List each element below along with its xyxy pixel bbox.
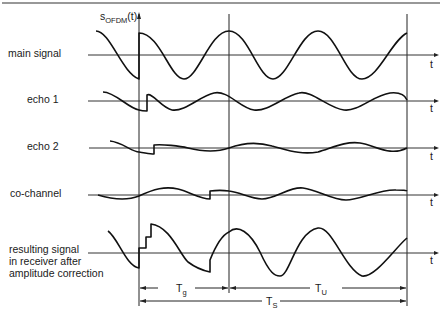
resulting-signal-wave bbox=[108, 224, 407, 276]
svg-text:t: t bbox=[430, 102, 433, 114]
ofdm-echo-diagram: sOFDM(t) t t t t t main signal echo 1 ec… bbox=[0, 0, 447, 313]
time-axes bbox=[88, 53, 439, 255]
useful-interval-dimension: TU bbox=[230, 282, 406, 297]
row-label-result-1: resulting signal bbox=[9, 243, 79, 255]
y-axis-label: sOFDM(t) bbox=[100, 10, 137, 25]
guard-interval-dimension: Tg bbox=[140, 282, 228, 297]
co-channel-wave bbox=[98, 188, 407, 200]
svg-text:t: t bbox=[430, 254, 433, 266]
time-axis-labels: t t t t t bbox=[430, 58, 433, 266]
row-label-echo-1: echo 1 bbox=[27, 93, 59, 105]
row-label-co-channel: co-channel bbox=[10, 187, 61, 199]
useful-interval-label: TU bbox=[315, 282, 327, 297]
row-label-echo-2: echo 2 bbox=[27, 140, 59, 152]
svg-text:t: t bbox=[430, 150, 433, 162]
svg-text:t: t bbox=[430, 58, 433, 70]
row-label-result-3: amplitude correction bbox=[9, 267, 104, 279]
row-label-main-signal: main signal bbox=[8, 47, 61, 59]
y-axis-arrow-icon bbox=[137, 12, 141, 19]
svg-text:t: t bbox=[430, 196, 433, 208]
symbol-interval-dimension: TS bbox=[140, 295, 406, 310]
symbol-interval-label: TS bbox=[266, 295, 277, 310]
row-label-result-2: in receiver after bbox=[9, 255, 82, 267]
guard-interval-label: Tg bbox=[176, 282, 187, 297]
